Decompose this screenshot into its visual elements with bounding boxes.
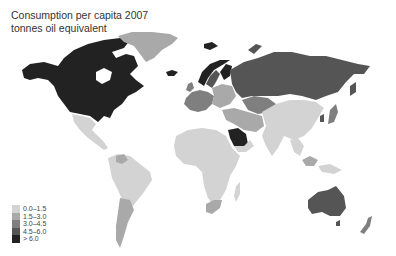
legend-item: > 6.0 (12, 235, 46, 243)
region-korea[interactable] (320, 114, 324, 122)
legend-swatch (12, 205, 20, 213)
legend-label: > 6.0 (23, 235, 39, 243)
region-novaya-zemlya[interactable] (248, 44, 262, 54)
legend-item: 4.5–6.0 (12, 228, 46, 236)
region-russia[interactable] (230, 52, 370, 100)
region-indonesia[interactable] (318, 164, 342, 174)
legend-item: 1.5–3.0 (12, 213, 46, 221)
legend-label: 3.0–4.5 (23, 220, 46, 228)
region-sakhalin[interactable] (350, 82, 356, 96)
region-finland[interactable] (220, 64, 232, 80)
region-svalbard[interactable] (204, 42, 218, 50)
region-north-america[interactable] (22, 38, 144, 122)
legend-item: 3.0–4.5 (12, 220, 46, 228)
region-malaysia[interactable] (302, 156, 318, 166)
legend-label: 1.5–3.0 (23, 213, 46, 221)
region-madagascar[interactable] (234, 182, 240, 202)
legend-swatch (12, 235, 20, 243)
legend-label: 0.0–1.5 (23, 205, 46, 213)
region-south-africa[interactable] (206, 200, 222, 214)
legend-label: 4.5–6.0 (23, 228, 46, 236)
region-africa[interactable] (174, 128, 240, 206)
legend-swatch (12, 228, 20, 236)
legend-item: 0.0–1.5 (12, 205, 46, 213)
region-tasmania[interactable] (336, 220, 340, 226)
region-iceland[interactable] (166, 70, 178, 76)
region-japan[interactable] (328, 104, 338, 124)
region-mexico[interactable] (72, 114, 108, 150)
region-australia[interactable] (308, 186, 346, 216)
region-western-europe[interactable] (184, 90, 214, 112)
legend-swatch (12, 213, 20, 221)
region-eastern-europe[interactable] (212, 84, 236, 108)
region-new-zealand[interactable] (360, 216, 372, 234)
region-uk[interactable] (186, 82, 194, 92)
world-map (0, 0, 396, 256)
region-argentina[interactable] (116, 198, 134, 248)
legend-swatch (12, 220, 20, 228)
legend: 0.0–1.5 1.5–3.0 3.0–4.5 4.5–6.0 > 6.0 (12, 205, 46, 243)
region-southeast-asia[interactable] (290, 138, 304, 156)
